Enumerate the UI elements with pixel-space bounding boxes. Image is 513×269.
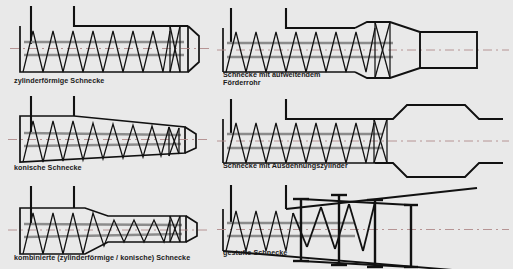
panel-kombinierte-schnecke: kombinierte (zylinderförmige / konische)… xyxy=(0,184,215,269)
figure-sheet: zylinderförmige Schnecke xyxy=(0,0,513,269)
panel-label-zylinderfoermige-schnecke: zylinderförmige Schnecke xyxy=(14,77,104,86)
panel-gestufte-schnecke: gestufte Schnecke xyxy=(215,183,513,269)
panel-label-konische-schnecke: konische Schnecke xyxy=(14,164,82,173)
panel-label-foerderrohr-line2: Förderrohr xyxy=(223,79,261,88)
panel-schnecke-aufweitendes-foerderrohr: Schnecke mit aufweitendem Förderrohr xyxy=(215,0,513,88)
panel-schnecke-ausdehnungszylinder: Schnecke mit Ausdehnungszylinder xyxy=(215,95,513,185)
panel-konische-schnecke: konische Schnecke xyxy=(0,94,215,180)
panel-label-ausdehnungszylinder: Schnecke mit Ausdehnungszylinder xyxy=(223,162,348,171)
panel-label-gestufte-schnecke: gestufte Schnecke xyxy=(223,249,287,258)
panel-zylinderfoermige-schnecke: zylinderförmige Schnecke xyxy=(0,0,215,88)
panel-label-kombinierte-schnecke: kombinierte (zylinderförmige / konische)… xyxy=(14,254,190,263)
